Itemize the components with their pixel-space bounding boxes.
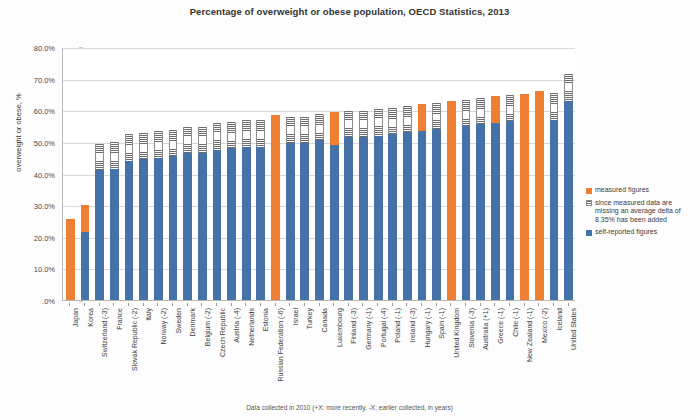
bar-group[interactable] <box>432 103 441 300</box>
bar-group[interactable] <box>110 142 119 300</box>
x-tick-label-text: Spain (-1) <box>438 308 445 339</box>
bar-segment-self-reported <box>139 159 148 300</box>
x-tick-label: Switzerland (-3) <box>101 259 108 308</box>
x-tick-mark <box>348 303 349 306</box>
x-tick-label: Turkey <box>306 287 313 308</box>
x-tick-label-text: United States <box>570 308 577 350</box>
x-tick-label-text: Switzerland (-3) <box>101 308 108 357</box>
bar-segment-measured <box>66 219 75 300</box>
bar-segment-self-reported <box>506 121 515 300</box>
x-tick-label: Finland (-3) <box>350 272 357 308</box>
bar-group[interactable] <box>491 96 500 300</box>
bar-segment-measured <box>491 96 500 123</box>
x-tick-mark <box>84 303 85 306</box>
bar-group[interactable] <box>388 108 397 300</box>
x-tick-mark <box>157 303 158 306</box>
x-tick-mark <box>480 303 481 306</box>
bar-group[interactable] <box>535 91 544 300</box>
x-tick-label: Denmark <box>189 280 196 308</box>
x-tick-mark <box>304 303 305 306</box>
x-tick-label: Slovak Republic (-2) <box>131 245 138 308</box>
x-tick-label: Estonia <box>262 285 269 308</box>
x-tick-label: Chile (-1) <box>512 279 519 308</box>
bar-segment-delta <box>183 127 192 153</box>
x-tick-label: Belgium (-2) <box>204 270 211 308</box>
chart-footnote: Data collected in 2010 (+X: more recentl… <box>0 404 699 411</box>
x-tick-label: Austria (-4) <box>233 273 240 308</box>
x-tick-label-text: Mexico (-2) <box>541 308 548 343</box>
x-tick-mark <box>216 303 217 306</box>
y-tick-label: 30.0% <box>34 202 55 211</box>
bar-segment-measured <box>81 205 90 232</box>
legend-item[interactable]: measured figures <box>586 186 696 195</box>
bar-group[interactable] <box>139 133 148 300</box>
x-tick-label: Germany (-1) <box>365 266 372 308</box>
x-tick-mark <box>319 303 320 306</box>
x-tick-mark <box>231 303 232 306</box>
bar-group[interactable] <box>506 95 515 300</box>
x-tick-label-text: Japan <box>72 308 79 327</box>
x-tick-label: United Kingdom <box>453 258 460 308</box>
bar-group[interactable] <box>315 114 324 300</box>
legend-swatch-self-icon <box>586 230 592 236</box>
x-tick-mark <box>392 303 393 306</box>
y-tick-label: .0% <box>42 297 55 306</box>
x-tick-label: Australia (+1) <box>482 266 489 308</box>
bar-segment-delta <box>227 122 236 148</box>
x-tick-label: Japan <box>72 289 79 308</box>
x-tick-mark <box>421 303 422 306</box>
bar-group[interactable] <box>403 106 412 300</box>
x-tick-label-text: Italy <box>145 308 152 321</box>
bar-group[interactable] <box>300 117 309 300</box>
x-tick-label-text: Chile (-1) <box>512 308 519 337</box>
bar-group[interactable] <box>66 219 75 300</box>
y-tick-label: 40.0% <box>34 170 55 179</box>
x-tick-label: Hungary (-1) <box>424 269 431 308</box>
bar-segment-delta <box>110 142 119 168</box>
bar-group[interactable] <box>81 205 90 300</box>
bar-segment-self-reported <box>315 140 324 300</box>
x-tick-mark <box>377 303 378 306</box>
x-tick-mark <box>538 303 539 306</box>
bar-segment-delta <box>432 103 441 129</box>
bar-segment-self-reported <box>256 147 265 300</box>
x-tick-label-text: Slovenia (-3) <box>468 308 475 348</box>
y-tick-label: 70.0% <box>34 75 55 84</box>
x-tick-label: Portugal (-4) <box>380 269 387 308</box>
x-tick-label-text: Belgium (-2) <box>204 308 211 346</box>
bar-segment-delta <box>300 117 309 143</box>
x-tick-mark <box>450 303 451 306</box>
x-tick-mark <box>99 303 100 306</box>
bar-segment-delta <box>139 133 148 159</box>
bar-group[interactable] <box>169 130 178 300</box>
x-tick-label-text: Greece (-1) <box>497 308 504 344</box>
y-tick-label: 20.0% <box>34 233 55 242</box>
legend-swatch-delta-icon <box>586 200 592 206</box>
bar-group[interactable] <box>183 127 192 300</box>
legend-item[interactable]: self-reported figures <box>586 228 696 237</box>
x-tick-label: Czech Republic <box>219 259 226 308</box>
x-tick-label-text: Germany (-1) <box>365 308 372 350</box>
x-tick-mark <box>260 303 261 306</box>
bar-segment-delta <box>95 144 104 170</box>
bar-group[interactable] <box>550 93 559 300</box>
x-tick-mark <box>524 303 525 306</box>
bar-segment-delta <box>374 109 383 135</box>
x-tick-label-text: Portugal (-4) <box>380 308 387 347</box>
bar-segment-delta <box>169 130 178 156</box>
bar-group[interactable] <box>256 120 265 300</box>
bar-segment-delta <box>462 100 471 126</box>
x-tick-mark <box>436 303 437 306</box>
x-tick-label: Mexico (-2) <box>541 273 548 308</box>
x-tick-label: United States <box>570 266 577 308</box>
chart-legend: measured figuressince measured data are … <box>586 186 696 241</box>
bar-group[interactable] <box>286 117 295 300</box>
bar-segment-delta <box>388 108 397 134</box>
bar-segment-delta <box>154 131 163 157</box>
bar-segment-self-reported <box>550 120 559 300</box>
bar-segment-delta <box>359 111 368 137</box>
legend-item[interactable]: since measured data are missing an avera… <box>586 199 696 225</box>
bar-segment-delta <box>315 114 324 140</box>
x-tick-label-text: Finland (-3) <box>350 308 357 344</box>
x-tick-label-text: France <box>116 308 123 330</box>
